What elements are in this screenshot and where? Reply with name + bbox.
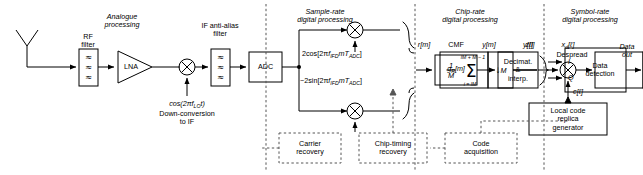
if-filter-label: IF anti-alias filter xyxy=(201,22,238,39)
signal-c-l: c[ℓ] xyxy=(573,88,583,96)
sin-mixer-expression: −2sin[2πfIFDmTADC] xyxy=(300,77,362,87)
chip-timing-arrow xyxy=(390,89,396,95)
data-detection-label: Data detection xyxy=(585,62,614,79)
rf-filter-wave-icon-2: ≈ xyxy=(85,62,92,72)
local-code-label: Local code replica generator xyxy=(551,107,586,132)
input-label-q: Q xyxy=(568,74,574,82)
heading-symbol-rate: Symbol-rate digital processing xyxy=(562,8,618,25)
if-filter-wave-icon-3: ≈ xyxy=(217,72,224,82)
if-filter-wave-icon-2: ≈ xyxy=(217,62,224,72)
input-label-i: I xyxy=(568,58,570,66)
signal-r-m: r[m] xyxy=(418,41,430,49)
cos-mixer-expression: 2cos[2πfIFDmTADC] xyxy=(302,50,362,60)
rf-filter-wave-icon-1: ≈ xyxy=(85,52,92,62)
adc-label: ADC xyxy=(258,63,273,71)
local-code-feed-arrow xyxy=(565,97,571,103)
accumulator-fraction: 1 M xyxy=(447,62,456,79)
despread-label: Despread xyxy=(556,51,587,59)
accumulator-upper-limit: lM + M − 1 xyxy=(461,54,486,60)
heading-chip-rate: Chip-rate digital processing xyxy=(442,8,498,25)
decimator-label: Decimat. & interp. xyxy=(504,58,532,83)
cmf-heading: CMF xyxy=(448,41,464,49)
lna-label: LNA xyxy=(124,63,138,71)
signal-z-l: z[l] xyxy=(525,41,534,49)
downconversion-label: Down-conversion to IF xyxy=(159,110,215,127)
data-out-label: Data out xyxy=(619,43,634,60)
downsample-label: ↓M xyxy=(496,64,507,76)
heading-sample-rate: Sample-rate digital processing xyxy=(297,8,353,25)
rf-filter-label: RF filter xyxy=(81,33,95,50)
accumulator-lower-limit: i = lM xyxy=(464,81,477,87)
block-diagram-canvas: Analogue processing Sample-rate digital … xyxy=(0,0,643,175)
carrier-recovery-label: Carrier recovery xyxy=(296,140,324,157)
rf-filter-wave-icon-3: ≈ xyxy=(85,72,92,82)
chip-timing-recovery-label: Chip-timing recovery xyxy=(375,140,411,157)
code-acquisition-label: Code acquisition xyxy=(464,140,498,157)
if-filter-wave-icon-1: ≈ xyxy=(217,52,224,62)
heading-analogue: Analogue processing xyxy=(105,13,140,30)
signal-y-m: y[m] xyxy=(482,41,496,49)
accumulator-sigma: Σ xyxy=(466,63,477,80)
